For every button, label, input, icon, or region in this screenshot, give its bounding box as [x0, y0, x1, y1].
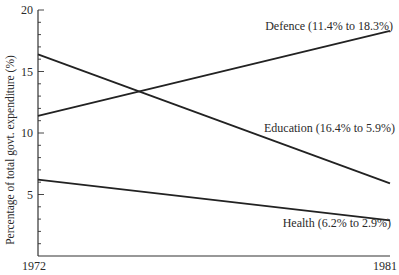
series-line-health	[38, 180, 390, 221]
y-tick-label-20: 20	[21, 3, 33, 17]
series-label-health: Health (6.2% to 2.9%)	[283, 216, 391, 230]
line-chart: 20 15 10 5 Percentage of total govt. exp…	[0, 0, 399, 275]
y-tick-label-15: 15	[21, 65, 33, 79]
x-tick-label-1981: 1981	[373, 259, 397, 273]
y-tick-label-10: 10	[21, 126, 33, 140]
series-label-defence: Defence (11.4% to 18.3%)	[265, 19, 393, 33]
x-tick-label-1972: 1972	[22, 259, 46, 273]
series-label-education: Education (16.4% to 5.9%)	[264, 121, 395, 135]
y-tick-label-5: 5	[27, 188, 33, 202]
y-axis-title: Percentage of total govt. expenditure (%…	[4, 55, 17, 245]
y-axis-ticks	[38, 10, 44, 244]
